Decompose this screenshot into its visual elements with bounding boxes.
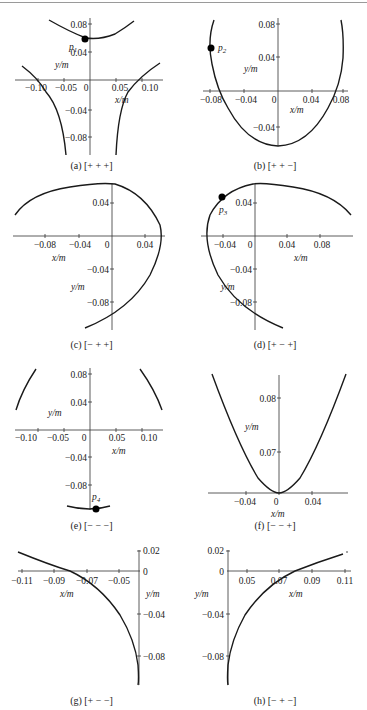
svg-text:−0.04: −0.04 bbox=[230, 265, 252, 275]
svg-text:x/m: x/m bbox=[59, 589, 74, 599]
svg-text:−0.10: −0.10 bbox=[15, 433, 37, 443]
svg-text:x/m: x/m bbox=[289, 105, 304, 115]
svg-text:y/m: y/m bbox=[244, 422, 259, 432]
curve-e-bottom bbox=[67, 506, 110, 509]
svg-text:−0.04: −0.04 bbox=[214, 240, 236, 250]
point-p1 bbox=[82, 36, 89, 43]
svg-text:0.05: 0.05 bbox=[112, 83, 129, 93]
svg-text:x/m: x/m bbox=[114, 95, 129, 105]
svg-text:y/m: y/m bbox=[54, 60, 69, 70]
caption-c: (c) [− + +] bbox=[0, 339, 183, 350]
svg-text:−0.11: −0.11 bbox=[11, 576, 33, 586]
svg-text:0.10: 0.10 bbox=[141, 433, 158, 443]
curve-left bbox=[22, 66, 66, 155]
svg-text:0.04: 0.04 bbox=[235, 198, 252, 208]
plot-f: −0.04 0 0.04 0.08 0.07 y/m x/m bbox=[183, 350, 367, 520]
svg-text:0: 0 bbox=[82, 433, 87, 443]
svg-text:0.04: 0.04 bbox=[70, 398, 87, 408]
caption-g: (g) [+ − −] bbox=[0, 695, 183, 706]
svg-text:−0.04: −0.04 bbox=[143, 610, 165, 620]
svg-text:0.05: 0.05 bbox=[239, 576, 256, 586]
svg-text:−0.09: −0.09 bbox=[43, 576, 65, 586]
svg-text:x/m: x/m bbox=[288, 589, 303, 599]
plot-h: 0.05 0.07 0.09 0.11 0.02 0 −0.04 −0.08 y… bbox=[183, 530, 367, 710]
svg-text:p2: p2 bbox=[217, 43, 227, 55]
svg-text:0: 0 bbox=[272, 95, 277, 105]
svg-text:0.08: 0.08 bbox=[259, 394, 276, 404]
svg-text:−0.04: −0.04 bbox=[202, 610, 224, 620]
svg-text:0: 0 bbox=[274, 497, 279, 507]
svg-text:0.11: 0.11 bbox=[337, 576, 354, 586]
panel-c: −0.08 −0.04 0 0.04 0.04 −0.04 −0.08 x/m … bbox=[0, 175, 183, 350]
svg-text:0.05: 0.05 bbox=[109, 433, 126, 443]
caption-a: (a) [+ + +] bbox=[0, 160, 183, 171]
svg-text:0.04: 0.04 bbox=[137, 240, 154, 250]
panel-h: 0.05 0.07 0.09 0.11 0.02 0 −0.04 −0.08 y… bbox=[183, 530, 367, 710]
svg-text:0.08: 0.08 bbox=[70, 20, 87, 30]
curve-g bbox=[18, 552, 139, 685]
svg-text:0.08: 0.08 bbox=[333, 95, 350, 105]
panel-a: −0.10 −0.05 0 0.05 0.10 0.08 0.04 −0.04 … bbox=[0, 0, 183, 175]
svg-text:p3: p3 bbox=[218, 205, 228, 217]
caption-h: (h) [− + −] bbox=[183, 695, 367, 706]
point-p3 bbox=[219, 194, 226, 201]
svg-text:0.04: 0.04 bbox=[92, 198, 109, 208]
panel-b: −0.08 −0.04 0 0.04 0.08 0.08 0.04 −0.04 … bbox=[183, 0, 367, 175]
curve-e-left bbox=[16, 369, 36, 410]
svg-text:0: 0 bbox=[248, 240, 253, 250]
plot-g: −0.11 −0.09 −0.07 −0.05 0.02 0 −0.04 −0.… bbox=[0, 530, 183, 710]
svg-text:−0.08: −0.08 bbox=[200, 95, 222, 105]
svg-text:y/m: y/m bbox=[145, 589, 160, 599]
svg-text:−0.05: −0.05 bbox=[47, 433, 69, 443]
svg-text:x/m: x/m bbox=[293, 253, 308, 263]
svg-text:−0.05: −0.05 bbox=[108, 576, 130, 586]
svg-text:0: 0 bbox=[84, 83, 89, 93]
svg-text:−0.04: −0.04 bbox=[69, 240, 91, 250]
svg-text:0.04: 0.04 bbox=[305, 497, 322, 507]
plot-d: −0.04 0 0.04 0.08 0.04 −0.04 −0.08 x/m y… bbox=[183, 175, 367, 350]
svg-text:0.10: 0.10 bbox=[142, 83, 159, 93]
panel-d: −0.04 0 0.04 0.08 0.04 −0.04 −0.08 x/m y… bbox=[183, 175, 367, 350]
panel-e: −0.10 −0.05 0 0.05 0.10 0.08 0.04 −0.04 … bbox=[0, 350, 183, 520]
svg-text:y/m: y/m bbox=[47, 408, 62, 418]
svg-text:0.02: 0.02 bbox=[207, 546, 224, 556]
curve-d bbox=[207, 183, 351, 328]
svg-text:−0.04: −0.04 bbox=[234, 497, 256, 507]
plot-c: −0.08 −0.04 0 0.04 0.04 −0.04 −0.08 x/m … bbox=[0, 175, 183, 350]
svg-text:0.08: 0.08 bbox=[258, 20, 275, 30]
svg-text:−0.04: −0.04 bbox=[65, 106, 87, 116]
svg-text:−0.08: −0.08 bbox=[202, 652, 224, 662]
curve-right bbox=[116, 63, 160, 155]
svg-text:x/m: x/m bbox=[270, 509, 285, 519]
curve-upper bbox=[49, 20, 134, 39]
svg-text:x/m: x/m bbox=[51, 253, 66, 263]
svg-text:y/m: y/m bbox=[220, 282, 235, 292]
svg-text:0.04: 0.04 bbox=[303, 95, 320, 105]
plot-e: −0.10 −0.05 0 0.05 0.10 0.08 0.04 −0.04 … bbox=[0, 350, 183, 520]
svg-text:0.07: 0.07 bbox=[259, 448, 276, 458]
svg-text:0.02: 0.02 bbox=[143, 546, 160, 556]
svg-text:−0.08: −0.08 bbox=[65, 481, 87, 491]
svg-text:−0.04: −0.04 bbox=[235, 95, 257, 105]
svg-text:−0.04: −0.04 bbox=[65, 453, 87, 463]
curve-h bbox=[228, 554, 344, 685]
svg-text:0.09: 0.09 bbox=[304, 576, 321, 586]
svg-text:−0.08: −0.08 bbox=[87, 298, 109, 308]
svg-text:p4: p4 bbox=[91, 492, 101, 504]
svg-text:0: 0 bbox=[105, 240, 110, 250]
svg-text:y/m: y/m bbox=[70, 282, 85, 292]
svg-text:0: 0 bbox=[143, 567, 148, 577]
svg-text:0: 0 bbox=[219, 567, 224, 577]
svg-text:−0.04: −0.04 bbox=[87, 265, 109, 275]
svg-text:y/m: y/m bbox=[243, 64, 258, 74]
panel-f: −0.04 0 0.04 0.08 0.07 y/m x/m (f) [− − … bbox=[183, 350, 367, 520]
svg-text:−0.08: −0.08 bbox=[65, 133, 87, 143]
svg-text:x/m: x/m bbox=[111, 446, 126, 456]
svg-text:y/m: y/m bbox=[194, 589, 209, 599]
svg-text:0.08: 0.08 bbox=[314, 240, 331, 250]
svg-text:0.04: 0.04 bbox=[279, 240, 296, 250]
point-p4 bbox=[93, 506, 100, 513]
plot-b: −0.08 −0.04 0 0.04 0.08 0.08 0.04 −0.04 … bbox=[183, 0, 367, 175]
point-p2 bbox=[208, 45, 215, 52]
svg-text:−0.04: −0.04 bbox=[253, 123, 275, 133]
